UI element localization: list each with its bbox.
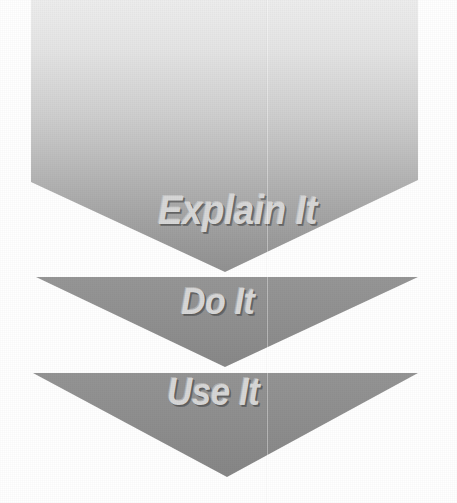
diagram-canvas: Explain It Do It Use It: [0, 0, 457, 503]
arrow-shape-explain-it: [31, 0, 418, 272]
arrow-shape-use-it: [33, 373, 418, 477]
process-arrows-graphic: [0, 0, 457, 503]
arrow-shape-do-it: [36, 277, 418, 367]
